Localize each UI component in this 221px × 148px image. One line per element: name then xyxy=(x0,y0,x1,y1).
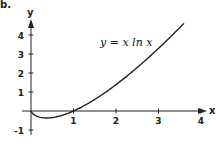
x-tick-label: 3 xyxy=(155,116,161,126)
y-tick-label: 4 xyxy=(18,31,24,41)
chart-canvas: b. 1234-11234 x y y = x ln x xyxy=(0,0,221,148)
y-tick-label: 3 xyxy=(18,50,24,60)
equation-annotation: y = x ln x xyxy=(99,36,153,49)
chart-figure: b. 1234-11234 x y y = x ln x xyxy=(0,0,221,148)
y-tick-label: 2 xyxy=(18,69,24,79)
x-tick-label: 1 xyxy=(70,116,76,126)
x-tick-label: 4 xyxy=(198,116,204,126)
y-axis-label: y xyxy=(27,7,34,18)
figure-label: b. xyxy=(0,0,11,10)
y-tick-label: -1 xyxy=(14,126,24,136)
y-tick-label: 1 xyxy=(18,88,24,98)
x-axis-label: x xyxy=(209,105,216,116)
x-axis-arrow-icon xyxy=(198,108,207,114)
x-tick-label: 2 xyxy=(113,116,119,126)
y-axis-arrow-icon xyxy=(28,19,34,28)
